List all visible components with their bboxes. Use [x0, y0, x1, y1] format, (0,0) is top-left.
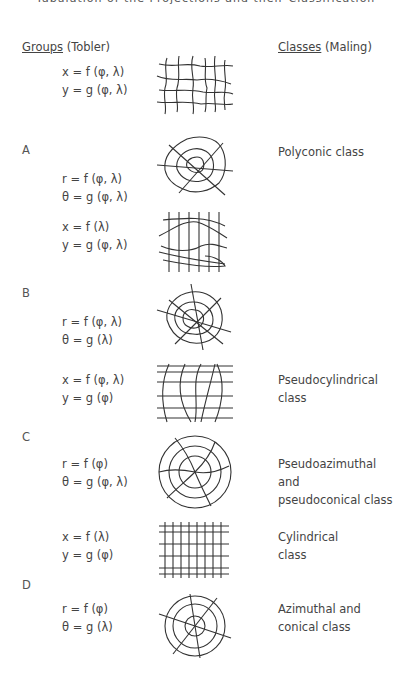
- equation: r = f (φ): [62, 600, 113, 618]
- class-label: Polyconic class: [278, 143, 364, 161]
- class-label: Cylindrical class: [278, 528, 338, 564]
- equation: x = f (λ): [62, 528, 113, 546]
- classes-header-source: (Maling): [325, 40, 372, 54]
- class-label: Azimuthal and conical class: [278, 600, 361, 636]
- equations-b2: r = f (φ, λ) θ = g (λ): [62, 313, 122, 349]
- rectangular-grid-figure: [155, 520, 235, 580]
- group-label-d: D: [22, 578, 31, 592]
- pseudocylindrical-figure: [155, 362, 235, 424]
- class-text: Pseudocylindrical: [278, 371, 378, 389]
- class-label: Pseudocylindrical class: [278, 371, 378, 407]
- equation: x = f (λ): [62, 218, 127, 236]
- spiral-circles-figure: [155, 432, 235, 512]
- class-text: pseudoconical class: [278, 491, 400, 509]
- equation: x = f (φ, λ): [62, 371, 124, 389]
- equations-a1: x = f (φ, λ) y = g (φ, λ): [62, 63, 127, 99]
- classes-header-title: Classes: [278, 40, 321, 54]
- class-text: Polyconic class: [278, 143, 364, 161]
- equation: y = g (φ, λ): [62, 236, 127, 254]
- groups-header-source: (Tobler): [67, 40, 110, 54]
- equation: θ = g (λ): [62, 331, 122, 349]
- equations-d2: r = f (φ) θ = g (λ): [62, 600, 113, 636]
- classes-header: Classes (Maling): [278, 40, 372, 54]
- class-text: class: [278, 389, 378, 407]
- group-label-a: A: [22, 143, 30, 157]
- equations-d1: x = f (λ) y = g (φ): [62, 528, 113, 564]
- equation: θ = g (φ, λ): [62, 188, 128, 206]
- class-text: Cylindrical: [278, 528, 338, 546]
- equation: y = g (φ): [62, 389, 124, 407]
- equation: r = f (φ): [62, 455, 128, 473]
- equations-a2: r = f (φ, λ) θ = g (φ, λ): [62, 170, 128, 206]
- equation: y = g (φ, λ): [62, 81, 127, 99]
- equations-c2: r = f (φ) θ = g (φ, λ): [62, 455, 128, 491]
- class-text: Pseudoazimuthal and: [278, 455, 400, 491]
- irregular-rings-figure: [155, 280, 235, 360]
- groups-header-title: Groups: [22, 40, 63, 54]
- group-label-c: C: [22, 430, 30, 444]
- straight-meridians-figure: [155, 208, 235, 278]
- equation: θ = g (φ, λ): [62, 473, 128, 491]
- equation: θ = g (λ): [62, 618, 113, 636]
- irregular-web-figure: [155, 125, 235, 205]
- equations-c1: x = f (φ, λ) y = g (φ): [62, 371, 124, 407]
- equation: x = f (φ, λ): [62, 63, 127, 81]
- class-text: conical class: [278, 618, 361, 636]
- class-label: Pseudoazimuthal and pseudoconical class: [278, 455, 400, 509]
- irregular-grid-figure: [155, 50, 235, 120]
- equation: y = g (φ): [62, 546, 113, 564]
- equation: r = f (φ, λ): [62, 170, 128, 188]
- group-label-b: B: [22, 286, 30, 300]
- class-text: class: [278, 546, 338, 564]
- groups-header: Groups (Tobler): [22, 40, 110, 54]
- concentric-circles-figure: [155, 592, 235, 662]
- equations-b1: x = f (λ) y = g (φ, λ): [62, 218, 127, 254]
- equation: r = f (φ, λ): [62, 313, 122, 331]
- top-caption: Tabulation of the Projections and their …: [36, 0, 375, 5]
- class-text: Azimuthal and: [278, 600, 361, 618]
